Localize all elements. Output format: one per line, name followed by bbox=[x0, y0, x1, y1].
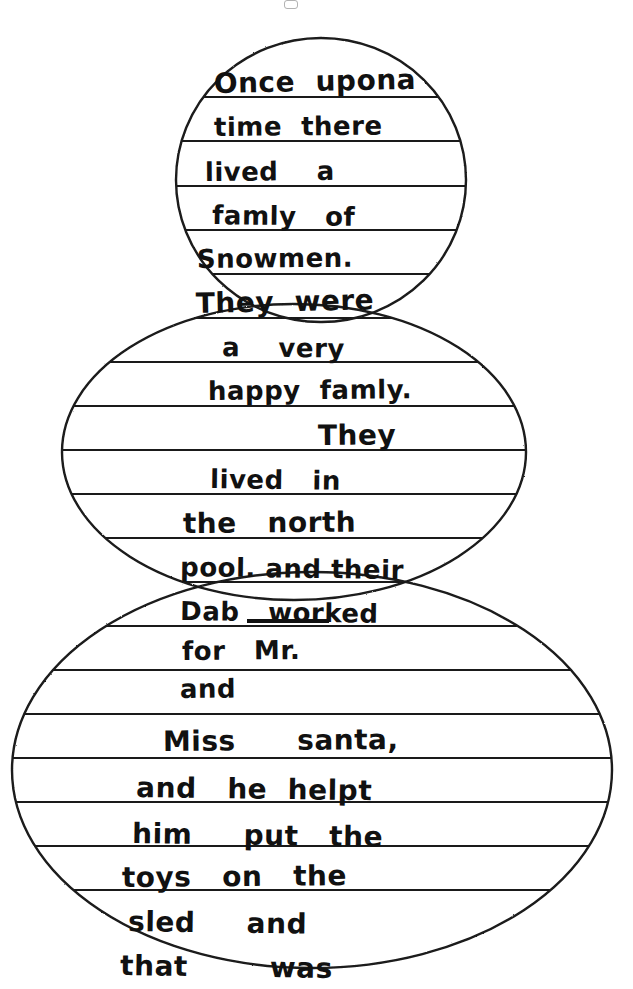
story-line: Dab worked bbox=[180, 598, 379, 627]
story-line: famly of bbox=[212, 202, 355, 230]
story-line: Once upona bbox=[213, 66, 416, 98]
story-line: for Mr. bbox=[182, 637, 301, 664]
story-line: They bbox=[318, 421, 397, 450]
story-line: Snowmen. bbox=[197, 245, 353, 272]
story-line: that was bbox=[120, 952, 333, 983]
story-line: and bbox=[180, 676, 236, 702]
story-line: lived in bbox=[210, 466, 341, 494]
story-line: toys on the bbox=[122, 862, 347, 892]
story-line: happy famly. bbox=[208, 376, 412, 404]
story-line: a very bbox=[222, 334, 345, 362]
story-line: They were bbox=[195, 286, 374, 318]
scanned-page: Once uponatime therelived afamly ofSnowm… bbox=[0, 0, 633, 989]
story-line: pool. and their bbox=[180, 554, 404, 583]
story-line: him put the bbox=[132, 820, 383, 852]
story-line: time there bbox=[214, 113, 383, 140]
story-line: Miss santa, bbox=[163, 726, 399, 756]
story-line: lived a bbox=[205, 158, 335, 185]
story-line: sled and bbox=[128, 908, 307, 938]
story-line: the north bbox=[183, 508, 357, 538]
story-line: and he helpt bbox=[136, 774, 372, 805]
